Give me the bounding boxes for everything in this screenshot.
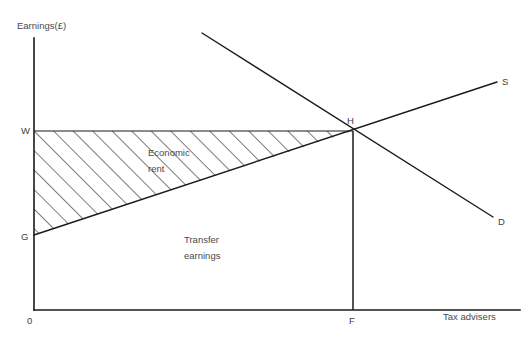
y-axis-label: Earnings(£)	[17, 20, 66, 31]
economics-diagram: Earnings(£) Tax advisers W G H F 0 S D E…	[0, 0, 529, 344]
economic-rent-label-line1: Economic	[148, 147, 190, 158]
transfer-earnings-label-line1: Transfer	[184, 234, 219, 245]
curve-label-supply: S	[502, 76, 508, 87]
transfer-earnings-label-line2: earnings	[184, 250, 221, 261]
point-label-h: H	[347, 115, 354, 126]
x-axis-label: Tax advisers	[443, 311, 496, 322]
point-label-w: W	[21, 125, 30, 136]
economic-rent-label-line2: rent	[148, 163, 165, 174]
point-label-g: G	[21, 231, 28, 242]
supply-demand-chart: Earnings(£) Tax advisers W G H F 0 S D E…	[0, 0, 529, 344]
point-label-origin: 0	[27, 315, 32, 326]
point-label-f: F	[349, 315, 355, 326]
curve-label-demand: D	[498, 216, 505, 227]
